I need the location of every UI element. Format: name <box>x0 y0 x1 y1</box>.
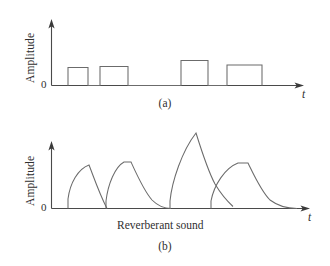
panel-a-y-axis-label: Amplitude <box>24 33 36 83</box>
panel-b-zero-tick: 0 <box>41 201 47 213</box>
figure-root: Amplitude 0 t (a) Amplitude 0 t Reverber… <box>0 0 330 266</box>
panel-a-pulse-train <box>68 61 262 86</box>
panel-a-plot <box>0 0 330 110</box>
panel-b-annotation: Reverberant sound <box>117 219 204 231</box>
panel-b-x-axis-label: t <box>308 211 311 223</box>
panel-b-caption: (b) <box>0 240 330 252</box>
panel-a-caption: (a) <box>0 97 330 109</box>
panel-b-burst-4 <box>211 163 297 209</box>
panel-b-burst-1 <box>68 165 107 209</box>
panel-b-burst-2 <box>106 162 171 209</box>
panel-b-burst-3 <box>170 133 233 209</box>
panel-b-y-axis-label: Amplitude <box>24 156 36 206</box>
panel-a-zero-tick: 0 <box>41 78 47 90</box>
